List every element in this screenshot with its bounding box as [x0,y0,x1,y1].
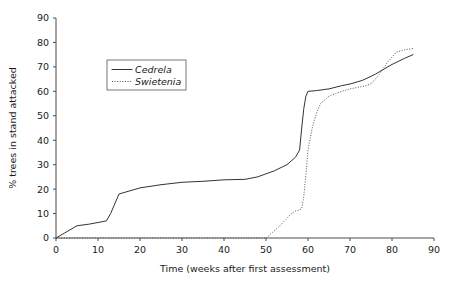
y-tick-label: 20 [37,184,49,195]
x-tick-label: 0 [53,244,59,255]
x-tick-label: 20 [134,244,146,255]
x-tick-label: 50 [260,244,272,255]
x-axis-title: Time (weeks after first assessment) [159,263,330,274]
y-tick-label: 50 [37,110,49,121]
x-tick-label: 60 [302,244,314,255]
chart-container: 0102030405060708090 0102030405060708090 … [0,0,452,282]
y-tick-label: 60 [37,86,49,97]
y-tick-label: 40 [37,135,49,146]
x-tick-label: 30 [176,244,188,255]
x-axis-ticks: 0102030405060708090 [53,238,440,255]
y-tick-label: 80 [37,37,49,48]
x-tick-label: 10 [92,244,104,255]
x-tick-label: 70 [344,244,356,255]
x-tick-label: 40 [218,244,230,255]
y-tick-label: 10 [37,208,49,219]
y-axis-ticks: 0102030405060708090 [37,12,56,243]
y-tick-label: 90 [37,12,49,23]
legend-label-cedrela: Cedrela [135,64,172,75]
x-tick-label: 90 [428,244,440,255]
y-tick-label: 0 [43,232,49,243]
legend-label-swietenia: Swietenia [135,76,182,87]
line-chart: 0102030405060708090 0102030405060708090 … [0,0,452,282]
x-tick-label: 80 [386,244,398,255]
y-tick-label: 70 [37,61,49,72]
chart-legend: CedrelaSwietenia [107,60,186,90]
y-axis-title: % trees in stand attacked [7,67,18,189]
y-tick-label: 30 [37,159,49,170]
